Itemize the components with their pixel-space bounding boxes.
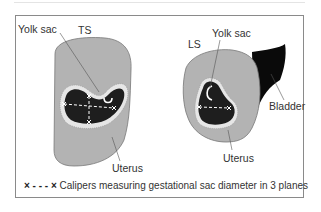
- yolk-sac-label-ls: Yolk sac: [212, 27, 251, 39]
- legend-text: Calipers measuring gestational sac diame…: [60, 180, 308, 191]
- caliper-legend-marker: × - - - ×: [24, 180, 57, 191]
- legend: × - - - × Calipers measuring gestational…: [24, 180, 308, 191]
- plane-label-ls: LS: [188, 38, 201, 50]
- bladder-label-ls: Bladder: [269, 100, 306, 112]
- yolk-sac-label-ts: Yolk sac: [18, 23, 57, 35]
- plane-label-ts: TS: [78, 24, 91, 36]
- uterus-label-ls: Uterus: [223, 152, 254, 164]
- transverse-panel: Yolk sac TS Uterus: [18, 23, 143, 174]
- longitudinal-panel: Yolk sac LS Bladder Uterus: [183, 27, 305, 164]
- uterus-label-ts: Uterus: [112, 162, 143, 174]
